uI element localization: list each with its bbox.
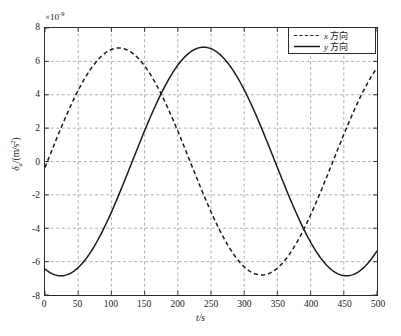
y-axis-subscript: a [16,163,23,166]
exponent-power: -9 [59,10,64,17]
series-0 [45,48,377,275]
axis-exponent-label: ×10-9 [45,9,65,22]
legend-suffix-y: 方向 [328,42,348,52]
y-axis-unit: /(m/s [11,144,21,164]
y-tick-label: 6 [4,56,40,66]
x-axis-title-text: t/s [196,313,205,323]
y-axis-title: δa/(m/s2) [9,106,23,202]
legend-suffix-x: 方向 [328,31,348,41]
y-axis-unit-exponent: 2 [9,140,16,143]
legend-sample-solid [293,42,321,51]
exponent-prefix: ×10 [45,12,59,22]
series-1 [45,47,377,276]
y-tick-label: 4 [4,89,40,99]
y-tick-label: -6 [4,257,40,267]
y-axis-symbol: δ [11,166,21,170]
y-tick-label: -4 [4,224,40,234]
y-tick-label: 8 [4,22,40,32]
legend-item-y: y 方向 [293,41,371,52]
legend-label-y: y 方向 [321,42,348,52]
legend-item-x: x 方向 [293,30,371,41]
legend-label-x: x 方向 [321,31,348,41]
data-curves [45,28,377,295]
legend-box: x 方向 y 方向 [288,27,376,54]
legend-sample-dashed [293,31,321,40]
x-axis-title: t/s [0,313,401,323]
y-axis-unit-close: ) [11,137,21,140]
plot-area [44,27,378,296]
x-tick-label: 500 [358,299,398,310]
figure-canvas: ×10-9 86420-2-4-6-8 t/s δa/(m/s2) x 方向 y… [0,0,401,336]
